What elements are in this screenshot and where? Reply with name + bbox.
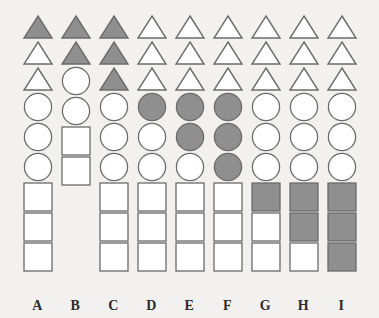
column-label-g: G xyxy=(247,298,285,314)
triangle-icon xyxy=(288,14,320,40)
circle-icon xyxy=(212,152,244,182)
shape-column-e xyxy=(171,14,209,272)
square-icon xyxy=(251,182,281,212)
square-icon xyxy=(99,242,129,272)
triangle-icon xyxy=(174,14,206,40)
square-icon xyxy=(289,182,319,212)
circle-icon xyxy=(60,66,92,96)
triangle-icon xyxy=(250,66,282,92)
shape-group-triangles-i xyxy=(326,14,358,92)
square-icon xyxy=(137,212,167,242)
square-icon xyxy=(175,182,205,212)
triangle-icon xyxy=(22,66,54,92)
square-icon xyxy=(137,182,167,212)
triangle-icon xyxy=(136,66,168,92)
triangle-icon xyxy=(60,14,92,40)
column-label-a: A xyxy=(19,298,57,314)
shape-group-squares-b xyxy=(61,126,91,186)
triangle-icon xyxy=(174,40,206,66)
square-icon xyxy=(99,182,129,212)
circle-icon xyxy=(174,152,206,182)
circle-icon xyxy=(174,122,206,152)
circle-icon xyxy=(174,92,206,122)
shape-group-triangles-d xyxy=(136,14,168,92)
shape-group-triangles-g xyxy=(250,14,282,92)
shape-group-squares-h xyxy=(289,182,319,272)
circle-icon xyxy=(326,152,358,182)
shape-matrix-figure: ABCDEFGHI xyxy=(0,0,379,318)
triangle-icon xyxy=(22,14,54,40)
shape-group-circles-e xyxy=(174,92,206,182)
triangle-icon xyxy=(98,14,130,40)
square-icon xyxy=(99,212,129,242)
circle-icon xyxy=(98,92,130,122)
shape-group-squares-i xyxy=(327,182,357,272)
shape-column-c xyxy=(95,14,133,272)
shape-group-squares-e xyxy=(175,182,205,272)
shape-group-squares-f xyxy=(213,182,243,272)
triangle-icon xyxy=(326,40,358,66)
square-icon xyxy=(213,242,243,272)
circle-icon xyxy=(136,122,168,152)
square-icon xyxy=(23,212,53,242)
shape-group-triangles-c xyxy=(98,14,130,92)
square-icon xyxy=(61,126,91,156)
shape-column-b xyxy=(57,14,95,186)
circle-icon xyxy=(22,122,54,152)
shape-group-circles-i xyxy=(326,92,358,182)
column-label-c: C xyxy=(95,298,133,314)
shape-column-i xyxy=(323,14,361,272)
triangle-icon xyxy=(288,66,320,92)
square-icon xyxy=(23,242,53,272)
square-icon xyxy=(251,242,281,272)
shape-group-circles-h xyxy=(288,92,320,182)
shape-group-triangles-h xyxy=(288,14,320,92)
square-icon xyxy=(137,242,167,272)
circle-icon xyxy=(98,122,130,152)
triangle-icon xyxy=(98,66,130,92)
shape-group-circles-a xyxy=(22,92,54,182)
triangle-icon xyxy=(212,14,244,40)
shape-column-g xyxy=(247,14,285,272)
shape-group-circles-d xyxy=(136,92,168,182)
column-label-b: B xyxy=(57,298,95,314)
shape-group-triangles-f xyxy=(212,14,244,92)
circle-icon xyxy=(250,92,282,122)
shape-group-circles-g xyxy=(250,92,282,182)
square-icon xyxy=(327,212,357,242)
square-icon xyxy=(213,212,243,242)
circle-icon xyxy=(326,92,358,122)
shape-group-triangles-e xyxy=(174,14,206,92)
square-icon xyxy=(327,242,357,272)
triangle-icon xyxy=(22,40,54,66)
triangle-icon xyxy=(250,14,282,40)
circle-icon xyxy=(288,92,320,122)
triangle-icon xyxy=(136,40,168,66)
circle-icon xyxy=(22,92,54,122)
column-label-i: I xyxy=(323,298,361,314)
shape-group-squares-c xyxy=(99,182,129,272)
shape-columns-container xyxy=(0,0,379,318)
circle-icon xyxy=(250,122,282,152)
circle-icon xyxy=(98,152,130,182)
square-icon xyxy=(61,156,91,186)
column-label-e: E xyxy=(171,298,209,314)
shape-column-f xyxy=(209,14,247,272)
shape-column-d xyxy=(133,14,171,272)
circle-icon xyxy=(136,92,168,122)
square-icon xyxy=(175,212,205,242)
shape-group-triangles-b xyxy=(60,14,92,66)
triangle-icon xyxy=(174,66,206,92)
column-label-d: D xyxy=(133,298,171,314)
shape-group-squares-g xyxy=(251,182,281,272)
square-icon xyxy=(327,182,357,212)
square-icon xyxy=(289,242,319,272)
triangle-icon xyxy=(250,40,282,66)
circle-icon xyxy=(212,122,244,152)
shape-group-circles-f xyxy=(212,92,244,182)
shape-group-squares-a xyxy=(23,182,53,272)
circle-icon xyxy=(212,92,244,122)
triangle-icon xyxy=(326,66,358,92)
circle-icon xyxy=(136,152,168,182)
triangle-icon xyxy=(136,14,168,40)
